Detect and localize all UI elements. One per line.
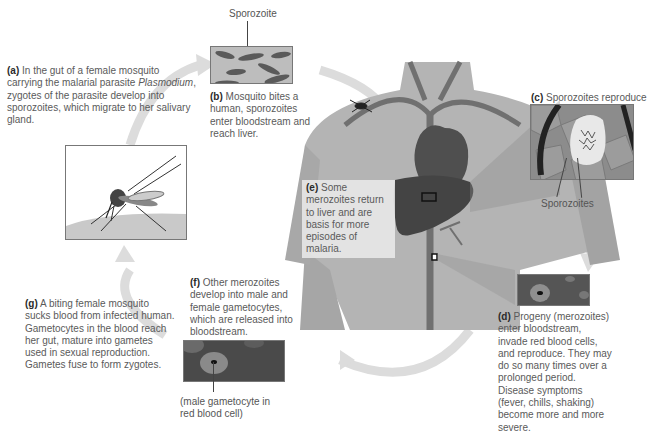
red-blood-cells-graphic	[184, 341, 285, 382]
vessel-marker-box	[432, 254, 437, 260]
caption-step-d: (d) Progeny (merozoites) enter bloodstre…	[498, 311, 613, 432]
sporozoite-shapes	[211, 47, 293, 84]
step-a-tag: (a)	[7, 65, 19, 76]
gametocyte-pointer	[213, 362, 214, 392]
liver-cell-panel	[530, 104, 634, 180]
caption-step-f: (f) Other merozoites develop into male a…	[190, 277, 305, 338]
mosquito-panel	[65, 145, 187, 240]
male-gametocyte-label: (male gametocyte in red blood cell)	[180, 396, 280, 420]
caption-step-b: (b) Mosquito bites a human, sporozoites …	[210, 91, 320, 140]
gametocyte-panel	[183, 340, 285, 382]
mosquito-biting-skin-graphic	[66, 146, 187, 240]
caption-step-e: (e) Some merozoites return to liver and …	[302, 180, 395, 258]
merozoite-panel	[517, 274, 590, 306]
caption-step-g: (g) A biting female mosquito sucks blood…	[25, 298, 175, 372]
sporozoite-label: Sporozoite	[229, 8, 277, 19]
sporozoites-label: Sporozoites	[541, 198, 594, 209]
sporozoite-panel	[210, 46, 293, 84]
caption-step-a: (a) In the gut of a female mosquito carr…	[7, 65, 197, 126]
infected-blood-cells-graphic	[518, 275, 590, 306]
liver-cells-graphic	[531, 105, 634, 180]
sporozoite-pointer	[247, 21, 248, 49]
